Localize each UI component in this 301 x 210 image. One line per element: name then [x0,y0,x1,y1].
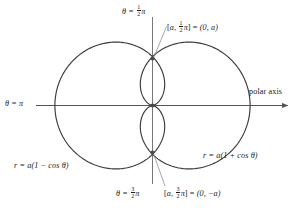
polar-axis-label: polar axis [249,88,282,96]
upper-point-label: [a, 12π] = (0, a) [167,20,218,33]
equals-sign: = [188,189,197,198]
theta-symbol: θ = [116,189,130,198]
comma: , [171,189,175,198]
fraction-one-half: 12 [179,20,183,33]
lower-point-label: [a, 32π] = (0, −a) [164,186,221,199]
theta-half-pi-label: θ = 12π [122,4,146,17]
theta-pi-label: θ = π [5,100,23,108]
pi-symbol: π [141,7,145,16]
intersection-point-lower [151,151,155,155]
equals-sign: = [191,23,200,32]
cartesian-coords: (0, −a) [197,189,221,198]
left-curve-equation: r = a(1 − cos θ) [14,162,69,170]
intersection-point-upper [151,57,155,61]
figure-canvas [0,0,301,210]
theta-three-half-pi-label: θ = 32π [116,186,140,199]
right-curve-equation: r = a(1 + cos θ) [203,152,258,160]
leader-line-upper [154,27,167,58]
pi-symbol: π [135,189,139,198]
fraction-three-halves: 32 [176,186,180,199]
theta-symbol: θ = [122,7,136,16]
leader-line-lower [154,155,165,187]
equation-body: = a(1 − cos θ) [17,161,68,170]
origin-cusp-point [151,104,155,108]
cardioid-figure: θ = 12π [a, 12π] = (0, a) θ = π polar ax… [0,0,301,210]
equation-body: = a(1 + cos θ) [206,151,257,160]
comma: , [174,23,178,32]
cartesian-coords: (0, a) [200,23,218,32]
